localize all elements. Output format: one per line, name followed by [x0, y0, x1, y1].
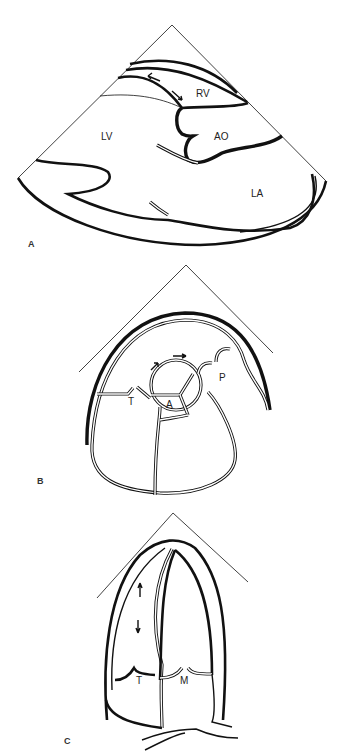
label-la: LA [251, 188, 264, 199]
rv-inferior-wall [182, 103, 248, 108]
panel-a: RV LV AO LA A [18, 25, 326, 249]
rv-free-wall [87, 313, 270, 445]
label-ao: AO [214, 131, 229, 142]
panel-label-b: B [37, 476, 44, 486]
panel-a-sector [18, 25, 326, 181]
panel-a-bottom-arc [18, 178, 326, 245]
label-t: T [128, 396, 134, 407]
echocardiography-diagram: RV LV AO LA A [0, 0, 338, 756]
label-a: A [166, 399, 173, 410]
panel-label-c: C [64, 736, 71, 746]
right-atrium-floor [106, 700, 162, 728]
label-lv: LV [101, 131, 113, 142]
label-m: M [180, 675, 188, 686]
panel-label-a: A [28, 239, 35, 249]
tricuspid-valve-c [115, 668, 155, 680]
panel-b: T A P B [37, 265, 273, 495]
posterior-lv-wall [36, 160, 314, 231]
aortic-root [177, 108, 282, 162]
panel-c: T M C [64, 513, 248, 750]
posterior-mitral-leaflet [150, 202, 168, 215]
venous-inflow [142, 729, 238, 740]
label-rv: RV [196, 88, 210, 99]
label-p: P [219, 372, 226, 383]
lv-lateral-wall [175, 550, 212, 675]
aortic-valve-ring [151, 360, 201, 410]
label-t-c: T [136, 675, 142, 686]
aortic-cusp-commissure [180, 395, 188, 415]
